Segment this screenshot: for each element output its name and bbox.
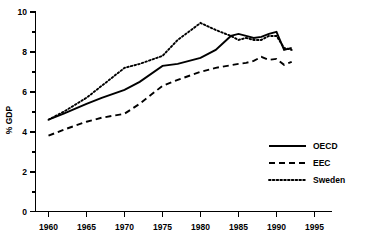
legend-label-oecd: OECD xyxy=(313,141,338,151)
y-tick-label-10: 10 xyxy=(18,7,28,17)
y-tick-label-6: 6 xyxy=(22,87,27,97)
legend-label-sweden: Sweden xyxy=(313,175,345,185)
x-tick-label-1965: 1965 xyxy=(77,222,96,232)
line-chart: 10 8 6 4 2 0 % GDP 1960 1965 1970 1975 1… xyxy=(0,0,369,237)
chart-background xyxy=(0,0,369,237)
x-tick-label-1985: 1985 xyxy=(229,222,248,232)
chart-canvas: 10 8 6 4 2 0 % GDP 1960 1965 1970 1975 1… xyxy=(0,0,369,237)
y-tick-label-0: 0 xyxy=(22,207,27,217)
y-tick-label-2: 2 xyxy=(22,167,27,177)
x-tick-label-1990: 1990 xyxy=(267,222,286,232)
x-tick-label-1975: 1975 xyxy=(153,222,172,232)
y-tick-label-8: 8 xyxy=(22,47,27,57)
legend-label-eec: EEC xyxy=(313,158,330,168)
x-tick-label-1970: 1970 xyxy=(115,222,134,232)
y-tick-label-4: 4 xyxy=(22,127,27,137)
x-tick-label-1960: 1960 xyxy=(39,222,58,232)
x-tick-label-1980: 1980 xyxy=(191,222,210,232)
x-tick-label-1995: 1995 xyxy=(305,222,324,232)
y-axis-title: % GDP xyxy=(4,106,14,135)
